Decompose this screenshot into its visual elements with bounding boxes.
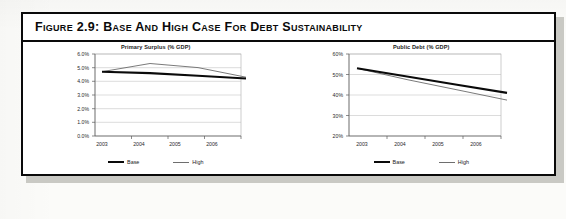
legend-label-base: Base: [127, 159, 139, 165]
legend-label-high: High: [192, 159, 203, 165]
series-line-high: [357, 68, 507, 100]
ytick-label: 6.0%: [77, 51, 89, 57]
xtick-label: 2006: [470, 141, 482, 147]
plot-primary-surplus: 6.0% 5.0% 4.0% 3.0% 2.0% 1.0% 0.0% 2003 …: [23, 42, 289, 154]
plot-public-debt: 60% 50% 40% 30% 20% 2003 2004 2005 2006: [289, 42, 555, 154]
legend-swatch-high-icon: [173, 162, 189, 163]
xtick-label: 2003: [356, 141, 368, 147]
legend-item-base: Base: [374, 159, 405, 165]
series-line-base: [357, 68, 507, 93]
ytick-label: 50%: [332, 72, 343, 78]
legend-item-high: High: [439, 159, 469, 165]
ytick-label: 5.0%: [77, 65, 89, 71]
chart-primary-surplus: Primary Surplus (% GDP): [23, 42, 289, 174]
xtick-label: 2006: [206, 141, 218, 147]
xtick-label: 2003: [96, 141, 108, 147]
legend-swatch-high-icon: [439, 162, 455, 163]
xtick-label: 2005: [169, 141, 181, 147]
figure-container: Figure 2.9: Base and High Case for Debt …: [21, 12, 556, 176]
legend-label-base: Base: [393, 159, 405, 165]
ytick-label: 20%: [332, 133, 343, 139]
legend-public-debt: Base High: [289, 159, 555, 165]
legend-swatch-base-icon: [374, 161, 390, 163]
legend-label-high: High: [458, 159, 469, 165]
legend-primary-surplus: Base High: [23, 159, 289, 165]
figure-title: Figure 2.9: Base and High Case for Debt …: [35, 20, 363, 34]
xtick-label: 2004: [133, 141, 145, 147]
legend-item-high: High: [173, 159, 203, 165]
chart-public-debt: Public Debt (% GDP) 60% 50%: [289, 42, 555, 174]
figure-header: Figure 2.9: Base and High Case for Debt …: [23, 14, 554, 42]
ytick-label: 0.0%: [77, 133, 89, 139]
ytick-label: 30%: [332, 113, 343, 119]
ytick-label: 1.0%: [77, 119, 89, 125]
ytick-label: 60%: [332, 51, 343, 57]
xtick-label: 2005: [432, 141, 444, 147]
ytick-label: 2.0%: [77, 106, 89, 112]
ytick-label: 4.0%: [77, 78, 89, 84]
ytick-label: 40%: [332, 92, 343, 98]
legend-item-base: Base: [108, 159, 139, 165]
xtick-label: 2004: [394, 141, 406, 147]
charts-row: Primary Surplus (% GDP): [23, 42, 554, 174]
legend-swatch-base-icon: [108, 161, 124, 163]
ytick-label: 3.0%: [77, 92, 89, 98]
